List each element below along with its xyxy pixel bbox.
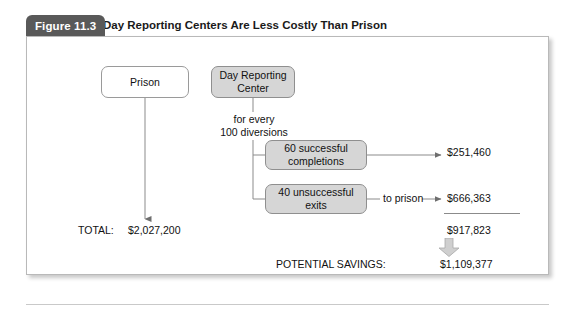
down-block-arrow-icon: [438, 238, 460, 257]
node-unsuccessful-exits: 40 unsuccessfulexits: [265, 184, 367, 214]
node-successful-completions-label: 60 successfulcompletions: [284, 142, 348, 168]
amount-successful-cost: $251,460: [447, 146, 491, 159]
label-potential-savings: POTENTIAL SAVINGS:: [276, 258, 386, 271]
node-prison: Prison: [101, 66, 189, 98]
label-prison-total: TOTAL:: [78, 224, 114, 237]
figure-number-label: Figure 11.3: [35, 20, 96, 32]
amount-prison-total: $2,027,200: [128, 224, 181, 237]
node-day-reporting-center-label: Day ReportingCenter: [219, 69, 286, 95]
node-successful-completions: 60 successfulcompletions: [265, 140, 367, 170]
amount-drc-subtotal: $917,823: [447, 224, 491, 237]
amount-unsuccessful-cost: $666,363: [447, 192, 491, 205]
cost-comparison-diagram: Prison Day ReportingCenter for every100 …: [0, 0, 574, 322]
label-to-prison: to prison: [383, 192, 423, 205]
node-prison-label: Prison: [130, 76, 160, 89]
node-unsuccessful-exits-label: 40 unsuccessfulexits: [278, 186, 353, 212]
figure-number-tab: Figure 11.3: [26, 15, 105, 36]
label-diversion-basis: for every100 diversions: [216, 113, 292, 139]
amount-potential-savings: $1,109,377: [440, 258, 493, 271]
subtotal-rule: [444, 213, 520, 214]
node-day-reporting-center: Day ReportingCenter: [211, 66, 295, 98]
